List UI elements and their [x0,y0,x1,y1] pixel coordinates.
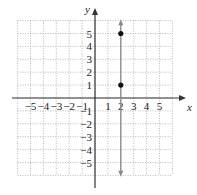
y-tick-label: −2 [80,118,92,130]
y-tick-label: 3 [87,53,93,65]
coordinate-plane: xy−5−4−3−2−112345−5−4−3−2−112345 [0,0,197,195]
x-tick-label: 3 [131,100,137,112]
x-axis-label: x [186,101,192,113]
x-tick-label: −2 [63,100,75,112]
y-tick-label: 1 [87,79,93,91]
x-tick-label: 4 [144,100,150,112]
x-tick-label: −3 [50,100,62,112]
line-arrow-down-icon [118,171,123,177]
y-axis-label: y [84,3,90,15]
x-tick-label: 5 [157,100,163,112]
line-arrow-up-icon [118,19,123,25]
y-tick-label: 2 [87,66,93,78]
data-point [118,83,123,88]
y-tick-label: −5 [80,157,92,169]
y-tick-label: −4 [80,144,92,156]
x-tick-label: −5 [25,100,37,112]
data-point [118,31,123,36]
y-axis-arrow-icon [92,8,98,15]
y-tick-label: 4 [87,40,93,52]
x-tick-label: 1 [105,100,111,112]
x-tick-label: −4 [38,100,50,112]
x-axis-arrow-icon [179,95,186,101]
y-tick-label: −1 [80,105,92,117]
y-tick-label: 5 [87,28,93,40]
y-tick-label: −3 [80,131,92,143]
